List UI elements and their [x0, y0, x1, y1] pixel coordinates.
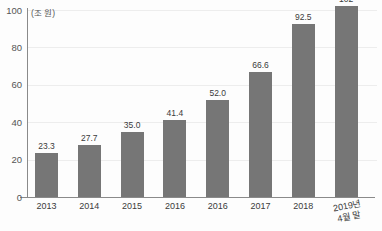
bar-value-label: 23.3: [27, 142, 67, 151]
bar-value-label: 92.5: [283, 13, 323, 22]
x-axis-tick-line: 2014: [79, 201, 99, 211]
bar-value-label: 66.6: [241, 61, 281, 70]
x-axis-tick-label: 2018: [281, 201, 325, 212]
y-axis-tick-label: 20: [0, 155, 22, 165]
bar-chart: 020406080100 (조 원) 23.327.735.041.452.06…: [0, 0, 382, 231]
y-axis-tick-label: 80: [0, 43, 22, 53]
bar-value-label: 35.0: [112, 121, 152, 130]
x-axis-tick-line: 2018: [293, 201, 313, 211]
x-axis-tick-line: 2015: [122, 201, 142, 211]
y-axis-tick-label: 40: [0, 118, 22, 128]
x-axis-tick-line: 2016: [208, 201, 228, 211]
x-axis-tick-label: 2017: [239, 201, 283, 212]
y-axis-tick-label: 100: [0, 6, 22, 16]
x-axis-tick-label: 2013: [25, 201, 69, 212]
x-axis-tick-line: 2017: [250, 201, 270, 211]
bar-value-label: 41.4: [155, 109, 195, 118]
bar-value-label: 102: [326, 0, 366, 4]
x-axis-tick-label: 2016: [153, 201, 197, 212]
bar-value-label: 52.0: [198, 89, 238, 98]
y-axis-unit-label: (조 원): [31, 6, 55, 18]
x-axis-tick-label: 2014: [67, 201, 111, 212]
x-axis-tick-line: 2016: [165, 201, 185, 211]
y-axis-tick-label: 60: [0, 80, 22, 90]
x-axis-tick-label: 2016: [196, 201, 240, 212]
x-axis-tick-label: 2015: [110, 201, 154, 212]
x-axis-tick-line: 2013: [36, 201, 56, 211]
y-axis-tick-label: 0: [0, 193, 22, 203]
bar-value-label: 27.7: [69, 134, 109, 143]
